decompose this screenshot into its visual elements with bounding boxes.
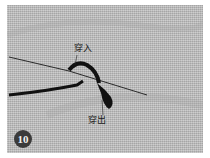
step-number-badge: 10 [14, 130, 32, 148]
fabric-photo [7, 5, 203, 153]
thread-loop [69, 63, 99, 83]
thread-tail [9, 81, 83, 95]
label-thread-in: 穿入 [74, 44, 92, 53]
label-thread-out: 穿出 [88, 116, 106, 125]
instruction-figure: 穿入 穿出 10 [0, 0, 210, 158]
needle-and-thread-illustration [7, 5, 203, 153]
